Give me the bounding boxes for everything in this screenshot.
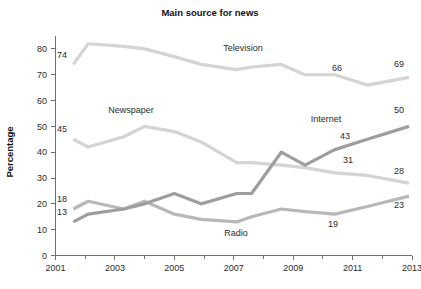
- y-tick-label: 10: [37, 225, 47, 235]
- value-label: 13: [57, 207, 67, 217]
- value-label: 43: [340, 131, 350, 141]
- series-label-television: Television: [223, 43, 263, 53]
- y-tick-label: 40: [37, 147, 47, 157]
- value-label: 50: [394, 105, 404, 115]
- y-tick-label: 0: [42, 251, 47, 261]
- x-tick-label: 2007: [224, 263, 244, 273]
- y-tick-label: 70: [37, 70, 47, 80]
- value-label: 28: [394, 166, 404, 176]
- value-label: 74: [57, 50, 67, 60]
- value-label: 31: [343, 155, 353, 165]
- series-label-internet: Internet: [311, 114, 342, 124]
- x-tick-label: 2003: [105, 263, 125, 273]
- value-label: 69: [394, 59, 404, 69]
- value-label: 18: [57, 194, 67, 204]
- value-label: 45: [57, 124, 67, 134]
- chart-title: Main source for news: [161, 7, 258, 18]
- x-tick-label: 2013: [402, 263, 421, 273]
- value-label: 19: [328, 219, 338, 229]
- y-tick-label: 60: [37, 96, 47, 106]
- value-label: 23: [394, 200, 404, 210]
- series-lines-group: [73, 44, 409, 222]
- y-axis-title: Percentage: [4, 126, 15, 177]
- x-tick-label: 2005: [164, 263, 184, 273]
- x-tick-label: 2009: [283, 263, 303, 273]
- series-label-newspaper: Newspaper: [108, 105, 154, 115]
- x-axis-ticks: 2001200320052007200920112013: [45, 256, 421, 274]
- y-tick-label: 30: [37, 173, 47, 183]
- x-tick-label: 2001: [45, 263, 65, 273]
- value-label: 66: [332, 63, 342, 73]
- y-tick-label: 20: [37, 199, 47, 209]
- line-chart: Main source for news Percentage 01020304…: [0, 0, 421, 289]
- chart-container: Main source for news Percentage 01020304…: [0, 0, 421, 289]
- series-line-newspaper: [73, 126, 409, 183]
- y-tick-label: 80: [37, 44, 47, 54]
- y-axis-ticks: 01020304050607080: [37, 44, 56, 261]
- x-tick-label: 2011: [343, 263, 362, 273]
- series-label-radio: Radio: [224, 228, 248, 238]
- y-tick-label: 50: [37, 122, 47, 132]
